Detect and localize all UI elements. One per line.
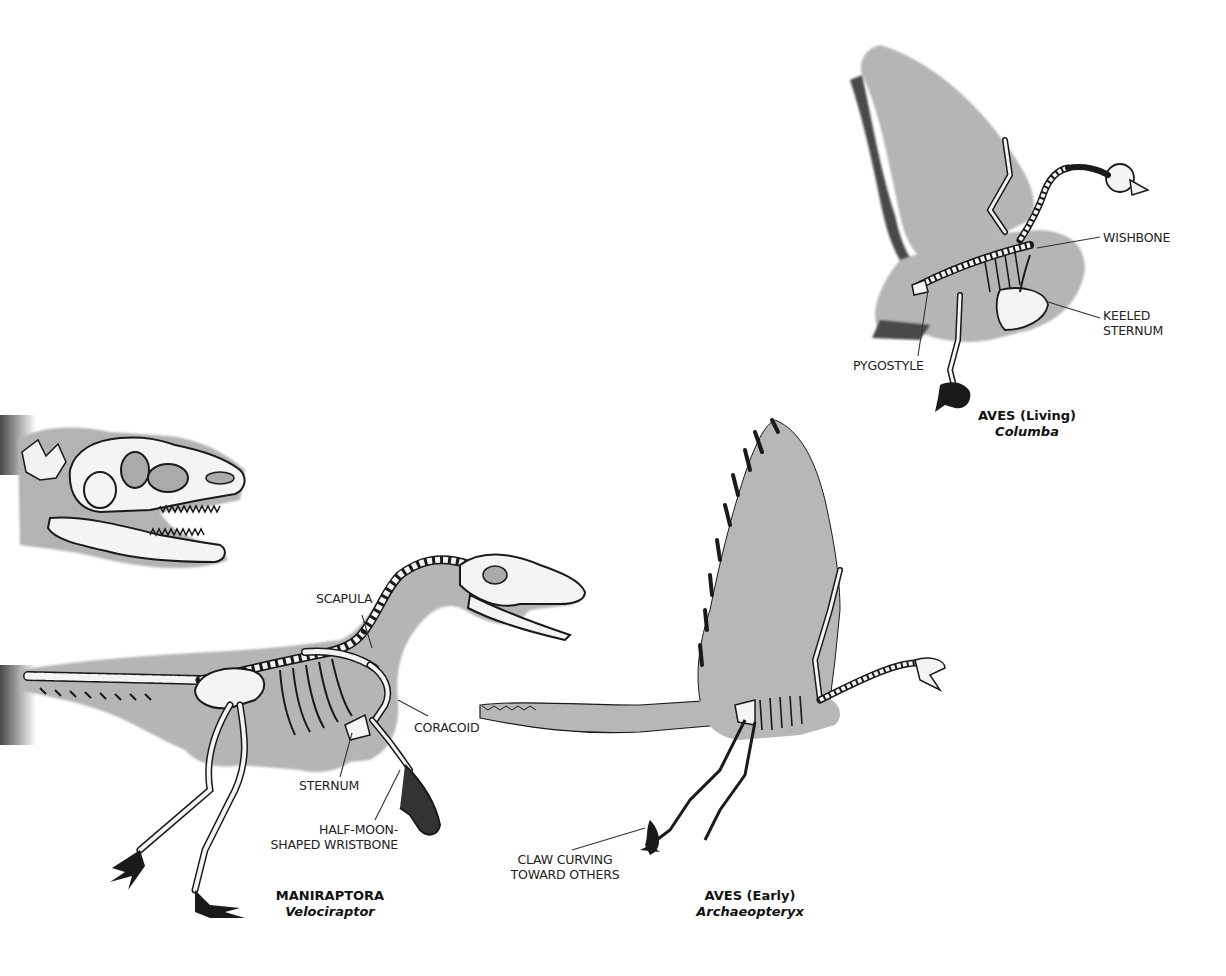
archaeopteryx-skeleton-illustration [480,420,945,855]
taxon-genus-columba: Columba [972,424,1082,440]
label-keeled-sternum: KEELED STERNUM [1103,308,1163,338]
partial-skull-illustration [18,427,245,568]
label-pygostyle: PYGOSTYLE [853,358,924,373]
label-scapula: SCAPULA [316,591,372,606]
label-wristbone-line1: HALF-MOON- [319,822,398,837]
evolution-diagram: WISHBONE KEELED STERNUM PYGOSTYLE AVES (… [0,0,1226,976]
archaeopteryx-leader-line [572,828,645,850]
label-coracoid: CORACOID [414,720,479,735]
label-claw-curving: CLAW CURVING TOWARD OTHERS [500,852,630,882]
label-keeled-sternum-line1: KEELED [1103,308,1150,323]
taxon-caption-velociraptor: MANIRAPTORA Velociraptor [270,888,390,920]
label-keeled-sternum-line2: STERNUM [1103,323,1163,338]
label-claw-line1: CLAW CURVING [518,852,613,867]
taxon-group-maniraptora: MANIRAPTORA [270,888,390,904]
label-sternum: STERNUM [299,778,359,793]
taxon-group-aves-early: AVES (Early) [690,888,810,904]
taxon-genus-velociraptor: Velociraptor [270,904,390,920]
taxon-caption-archaeopteryx: AVES (Early) Archaeopteryx [690,888,810,920]
label-claw-line2: TOWARD OTHERS [511,867,620,882]
illustration-layer [0,0,1226,976]
taxon-group-aves-living: AVES (Living) [972,408,1082,424]
label-wristbone-line2: SHAPED WRISTBONE [271,837,398,852]
taxon-genus-archaeopteryx: Archaeopteryx [690,904,810,920]
label-half-moon-wristbone: HALF-MOON- SHAPED WRISTBONE [248,822,398,852]
columba-skeleton-illustration [850,45,1148,412]
label-wishbone: WISHBONE [1103,230,1170,245]
taxon-caption-columba: AVES (Living) Columba [972,408,1082,440]
